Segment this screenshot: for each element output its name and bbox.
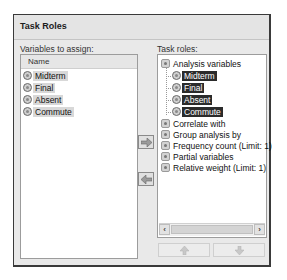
assigned-variable-name: Commute — [182, 107, 223, 117]
role-icon — [161, 141, 170, 150]
tree-connector — [166, 76, 171, 77]
task-roles-tree[interactable]: Analysis variables Midterm Final Absent … — [157, 54, 267, 238]
assigned-variable-name: Final — [182, 83, 204, 93]
scroll-right-button[interactable]: › — [254, 224, 265, 235]
role-label: Frequency count (Limit: 1) — [173, 141, 272, 151]
role-partial-variables[interactable]: Partial variables — [161, 151, 233, 162]
dialog-title: Task Roles — [20, 21, 67, 31]
numeric-variable-icon — [23, 95, 32, 104]
role-label: Relative weight (Limit: 1) — [173, 163, 266, 173]
tree-connector — [166, 112, 171, 113]
role-icon — [161, 59, 170, 68]
numeric-variable-icon — [172, 107, 181, 116]
arrow-down-icon — [235, 246, 244, 255]
scroll-left-button[interactable]: ‹ — [159, 224, 170, 235]
role-correlate-with[interactable]: Correlate with — [161, 118, 225, 129]
assigned-variable-commute[interactable]: Commute — [172, 106, 223, 117]
numeric-variable-icon — [172, 95, 181, 104]
role-label: Analysis variables — [173, 59, 241, 69]
task-roles-label: Task roles: — [157, 44, 198, 54]
move-down-button[interactable] — [213, 243, 265, 257]
role-label: Correlate with — [173, 119, 225, 129]
arrow-left-icon — [141, 175, 152, 184]
tree-connector — [166, 100, 171, 101]
name-column-label: Name — [28, 57, 49, 66]
role-analysis-variables[interactable]: Analysis variables — [161, 58, 241, 69]
horizontal-scrollbar[interactable]: ‹ › — [159, 223, 265, 236]
scrollbar-thumb[interactable] — [171, 225, 253, 234]
arrow-right-icon — [141, 138, 152, 147]
variable-item-final[interactable]: Final — [23, 82, 55, 93]
role-relative-weight[interactable]: Relative weight (Limit: 1) — [161, 162, 266, 173]
variable-item-commute[interactable]: Commute — [23, 106, 74, 117]
variable-item-absent[interactable]: Absent — [23, 94, 63, 105]
variables-list[interactable]: Name Midterm Final Absent Commute — [20, 54, 138, 259]
role-icon — [161, 152, 170, 161]
variables-to-assign-label: Variables to assign: — [20, 44, 94, 54]
variable-item-midterm[interactable]: Midterm — [23, 70, 68, 81]
numeric-variable-icon — [23, 83, 32, 92]
remove-button[interactable] — [138, 172, 154, 186]
numeric-variable-icon — [172, 71, 181, 80]
assign-button[interactable] — [138, 135, 154, 149]
variable-name: Absent — [33, 95, 63, 105]
assigned-variable-name: Midterm — [182, 71, 217, 81]
tree-connector — [166, 88, 171, 89]
numeric-variable-icon — [172, 83, 181, 92]
role-label: Group analysis by — [173, 130, 241, 140]
role-icon — [161, 119, 170, 128]
role-label: Partial variables — [173, 152, 233, 162]
variable-name: Final — [33, 83, 55, 93]
role-group-analysis-by[interactable]: Group analysis by — [161, 129, 241, 140]
numeric-variable-icon — [23, 71, 32, 80]
move-up-button[interactable] — [158, 243, 210, 257]
variable-name: Commute — [33, 107, 74, 117]
arrow-up-icon — [180, 246, 189, 255]
role-icon — [161, 163, 170, 172]
variable-name: Midterm — [33, 71, 68, 81]
assigned-variable-name: Absent — [182, 95, 212, 105]
task-roles-dialog: Task Roles Variables to assign: Name Mid… — [13, 14, 271, 267]
role-frequency-count[interactable]: Frequency count (Limit: 1) — [161, 140, 272, 151]
assigned-variable-absent[interactable]: Absent — [172, 94, 212, 105]
role-icon — [161, 130, 170, 139]
assigned-variable-midterm[interactable]: Midterm — [172, 70, 217, 81]
assigned-variable-final[interactable]: Final — [172, 82, 204, 93]
name-column-header[interactable]: Name — [21, 55, 137, 69]
dialog-header: Task Roles — [14, 15, 269, 40]
numeric-variable-icon — [23, 107, 32, 116]
